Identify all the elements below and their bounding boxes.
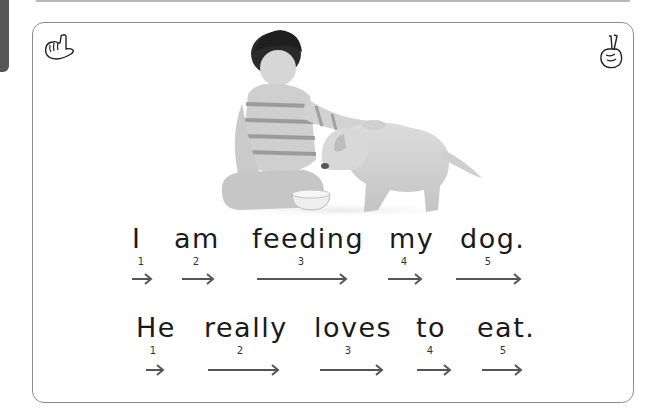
- boy-feeding-dog-image: [212, 24, 484, 218]
- word-number: 2: [193, 257, 199, 267]
- word: eat.: [477, 314, 535, 341]
- word-number: 2: [237, 346, 243, 356]
- crossed-fingers-icon: [598, 34, 626, 70]
- right-arrow-icon: [387, 273, 423, 285]
- word-number: 1: [138, 257, 144, 267]
- word: really: [204, 314, 288, 341]
- word-number: 4: [427, 346, 433, 356]
- word-number: 4: [401, 257, 407, 267]
- word-number: 3: [298, 257, 304, 267]
- word-number: 3: [345, 346, 351, 356]
- word: dog.: [460, 225, 525, 252]
- right-arrow-icon: [481, 364, 523, 376]
- word-number: 1: [150, 346, 156, 356]
- right-arrow-icon: [319, 364, 384, 376]
- word-number: 5: [500, 346, 506, 356]
- right-arrow-icon: [416, 364, 452, 376]
- right-arrow-icon: [145, 364, 165, 376]
- word: He: [136, 314, 176, 341]
- right-arrow-icon: [207, 364, 280, 376]
- word: my: [389, 225, 434, 252]
- word: feeding: [252, 225, 364, 252]
- word: to: [416, 314, 446, 341]
- word: loves: [314, 314, 392, 341]
- right-arrow-icon: [455, 273, 522, 285]
- right-arrow-icon: [131, 273, 153, 285]
- top-divider: [36, 0, 630, 2]
- side-tab: [0, 0, 9, 72]
- right-arrow-icon: [181, 273, 215, 285]
- word: I: [132, 225, 141, 252]
- word-number: 5: [485, 257, 491, 267]
- right-arrow-icon: [256, 273, 348, 285]
- word: am: [174, 225, 220, 252]
- pointing-hand-icon: [43, 33, 75, 61]
